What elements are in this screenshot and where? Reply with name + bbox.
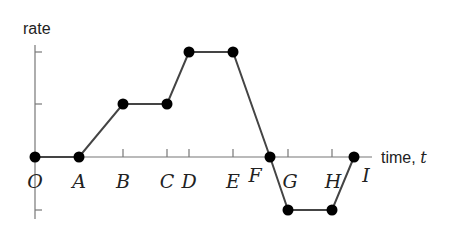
label-H: H [324, 170, 342, 192]
point-B [118, 99, 129, 110]
point-G [283, 205, 294, 216]
label-C: C [160, 170, 175, 192]
label-G: G [282, 170, 297, 192]
point-D [184, 47, 195, 58]
label-D: D [180, 170, 196, 192]
label-F: F [247, 164, 262, 186]
x-axis-label: time, t [381, 148, 427, 167]
point-H [327, 205, 338, 216]
label-I: I [361, 164, 370, 186]
x-ticks [123, 149, 332, 157]
point-C [162, 99, 173, 110]
rate-time-diagram: rate time, t O A B C D E F G H I [0, 0, 451, 234]
y-axis-label: rate [23, 20, 51, 37]
point-A [74, 152, 85, 163]
point-I [349, 152, 360, 163]
label-A: A [70, 170, 86, 192]
point-F [265, 152, 276, 163]
point-O [30, 152, 41, 163]
label-E: E [225, 170, 240, 192]
point-E [228, 47, 239, 58]
label-O: O [27, 170, 43, 192]
label-B: B [115, 170, 130, 192]
